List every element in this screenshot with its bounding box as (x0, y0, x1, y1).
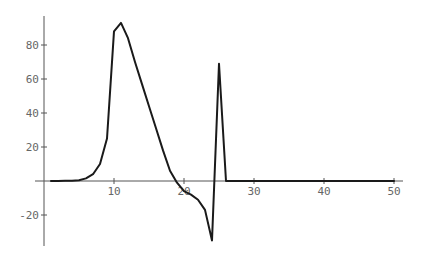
x-tick-label: 30 (247, 185, 260, 198)
y-tick-label: -20 (19, 209, 39, 222)
x-tick-label: 10 (107, 185, 120, 198)
series-layer (51, 23, 394, 241)
y-axis: -2020406080 (19, 16, 47, 246)
y-axis-ticks: -2020406080 (19, 39, 47, 222)
data-line (51, 23, 394, 241)
x-tick-label: 40 (317, 185, 330, 198)
line-chart: -2020406080 1020304050 (0, 0, 425, 260)
x-tick-label: 50 (387, 185, 400, 198)
y-tick-label: 80 (26, 39, 39, 52)
y-tick-label: 60 (26, 73, 39, 86)
y-tick-label: 20 (26, 141, 39, 154)
y-tick-label: 40 (26, 107, 39, 120)
